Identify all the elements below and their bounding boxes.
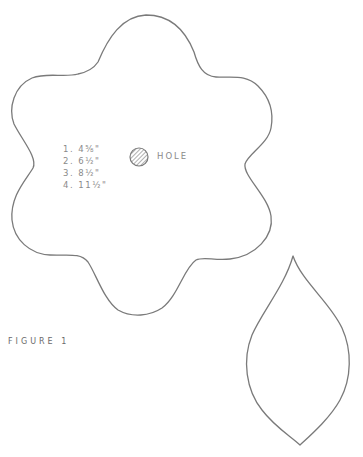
hole-label: HOLE [157,151,188,161]
size-item-4: 4. 11½" [63,179,107,191]
size-list: 1. 4⅝" 2. 6½" 3. 8½" 4. 11½" [63,143,107,191]
figure-caption: FIGURE 1 [8,337,69,346]
figure-canvas [0,0,363,457]
leaf-outline [247,256,350,445]
size-item-2: 2. 6½" [63,155,107,167]
size-item-3: 3. 8½" [63,167,107,179]
size-item-1: 1. 4⅝" [63,143,107,155]
hatched-circle-icon [130,148,148,166]
